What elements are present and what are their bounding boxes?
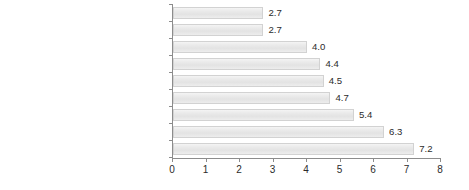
bar-row: Helps people communicate7.2: [172, 140, 440, 157]
bar-row: Innovation2.7: [172, 21, 440, 38]
x-axis-tick-label: 1: [196, 164, 216, 176]
bar-row: Operator you can trust6.3: [172, 123, 440, 140]
x-axis-tick: [340, 158, 341, 162]
y-axis-tick: [169, 140, 172, 141]
x-axis-tick: [273, 158, 274, 162]
bar: [173, 24, 263, 36]
x-axis-tick: [306, 158, 307, 162]
bar-value-label: 4.4: [325, 55, 338, 72]
x-axis-tick-label: 3: [263, 164, 283, 176]
bar: [173, 58, 320, 70]
y-axis-tick: [169, 123, 172, 124]
x-axis-tick-label: 7: [397, 164, 417, 176]
x-axis-tick-label: 5: [330, 164, 350, 176]
x-axis-tick: [407, 158, 408, 162]
bar-chart: Modern and contemporary image2.7Innovati…: [0, 0, 469, 190]
x-axis-tick: [440, 158, 441, 162]
x-axis-tick: [373, 158, 374, 162]
bar-row: Top quality5.4: [172, 106, 440, 123]
y-axis-tick: [169, 4, 172, 5]
x-axis-tick-label: 6: [363, 164, 383, 176]
y-axis-tick: [169, 55, 172, 56]
x-axis-tick-label: 4: [296, 164, 316, 176]
x-axis-tick: [172, 158, 173, 162]
y-axis-tick: [169, 38, 172, 39]
bar-value-label: 2.7: [268, 4, 281, 21]
bar: [173, 109, 354, 121]
bar: [173, 143, 414, 155]
y-axis-tick: [169, 72, 172, 73]
bar: [173, 7, 263, 19]
x-axis-tick-label: 2: [229, 164, 249, 176]
bar-row: Makes life easier4.4: [172, 55, 440, 72]
bar-value-label: 7.2: [419, 140, 432, 157]
y-axis-tick: [169, 106, 172, 107]
bar-row: Continuous improvements4.0: [172, 38, 440, 55]
bar-row: Latest trends and developments4.5: [172, 72, 440, 89]
x-axis-tick: [206, 158, 207, 162]
x-axis-tick-label: 0: [162, 164, 182, 176]
y-axis-tick: [169, 89, 172, 90]
bar-value-label: 4.0: [312, 38, 325, 55]
bar-row: Best phone network4.7: [172, 89, 440, 106]
x-axis-tick-label: 8: [430, 164, 450, 176]
bar-value-label: 4.5: [329, 72, 342, 89]
bar: [173, 75, 324, 87]
bar: [173, 126, 384, 138]
bar: [173, 92, 330, 104]
bar-value-label: 4.7: [335, 89, 348, 106]
bar-value-label: 6.3: [389, 123, 402, 140]
bar-value-label: 5.4: [359, 106, 372, 123]
bar-value-label: 2.7: [268, 21, 281, 38]
bar-row: Modern and contemporary image2.7: [172, 4, 440, 21]
bar: [173, 41, 307, 53]
y-axis-tick: [169, 21, 172, 22]
plot-area: Modern and contemporary image2.7Innovati…: [172, 4, 440, 158]
x-axis-tick: [239, 158, 240, 162]
